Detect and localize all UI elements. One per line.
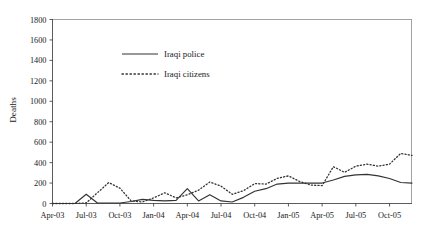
plot-frame [52,19,412,204]
y-tick-label: 0 [42,200,46,209]
y-tick-label: 800 [34,118,46,127]
legend-label-iraqi-citizens: Iraqi citizens [164,69,210,79]
series-line-iraqi-police [53,174,413,203]
y-tick-label: 1200 [30,77,47,86]
x-tick-label: Apr-04 [175,211,200,220]
x-tick-label: Apr-03 [41,211,65,220]
y-axis-title: Deaths [8,97,18,123]
y-tick-label: 1400 [30,56,47,65]
legend-label-iraqi-police: Iraqi police [164,49,204,59]
deaths-line-chart: 020040060080010001200140016001800 Apr-03… [0,0,434,234]
y-tick-label: 1000 [30,97,47,106]
x-tick-label: Oct-03 [108,211,131,220]
x-tick-label: Jan-04 [143,211,166,220]
x-tick-label: Jan-05 [277,211,299,220]
x-tick-label: Jul-04 [211,211,233,220]
y-tick-label: 1800 [30,16,47,25]
x-axis-ticks: Apr-03Jul-03Oct-03Jan-04Apr-04Jul-04Oct-… [41,204,401,220]
y-tick-label: 1600 [30,36,47,45]
chart-container: 020040060080010001200140016001800 Apr-03… [0,0,434,234]
x-tick-label: Jul-05 [345,211,366,220]
x-tick-label: Jul-03 [76,211,97,220]
y-tick-label: 400 [34,159,46,168]
series-line-iraqi-citizens [53,153,413,203]
y-tick-label: 200 [34,179,46,188]
data-series-layer [53,153,413,203]
x-tick-label: Oct-05 [378,211,401,220]
y-axis-ticks: 020040060080010001200140016001800 [30,16,53,209]
x-tick-label: Apr-05 [310,211,334,220]
y-tick-label: 600 [34,138,46,147]
chart-legend: Iraqi police Iraqi citizens [122,49,210,79]
x-tick-label: Oct-04 [243,211,267,220]
